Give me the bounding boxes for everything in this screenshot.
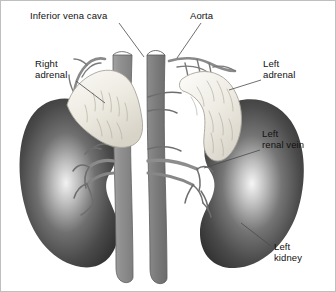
- aorta-shape: [147, 51, 167, 284]
- leader-left-adrenal: [229, 80, 261, 90]
- label-left-renal-vein: Left renal vein: [262, 128, 304, 150]
- leader-aorta: [177, 23, 201, 58]
- label-left-adrenal: Left adrenal: [263, 58, 295, 80]
- label-right-adrenal: Right adrenal: [35, 58, 67, 80]
- anatomy-figure: Inferior vena cava Aorta Right adrenal L…: [0, 0, 336, 292]
- label-left-kidney: Left kidney: [274, 241, 302, 263]
- left-adrenal-shape: [179, 72, 241, 161]
- label-aorta: Aorta: [190, 10, 213, 21]
- label-inferior-vena-cava: Inferior vena cava: [30, 10, 107, 21]
